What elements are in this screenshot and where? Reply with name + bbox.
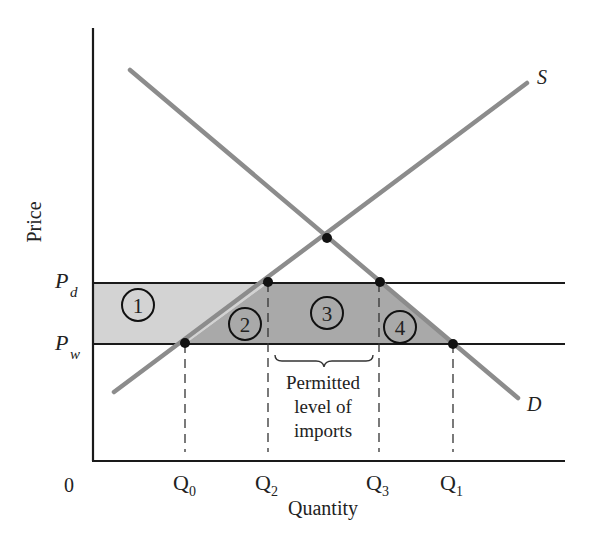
- q0-label: Q: [173, 470, 189, 495]
- area-1-label: 1: [133, 294, 144, 318]
- q0-subscript: 0: [189, 484, 196, 499]
- supply-at-pd-point: [263, 277, 273, 287]
- pd-label: P: [54, 268, 68, 293]
- area-2-label: 2: [240, 313, 251, 337]
- annotation-line-2: level of: [294, 396, 352, 417]
- q2-label: Q: [255, 470, 271, 495]
- x-axis-title: Quantity: [288, 497, 358, 520]
- origin-label: 0: [64, 474, 74, 496]
- annotation-line-3: imports: [294, 420, 352, 441]
- area-4-label: 4: [395, 316, 406, 340]
- y-axis-title: Price: [23, 201, 45, 242]
- q3-label: Q: [366, 470, 382, 495]
- demand-at-pd-point: [375, 277, 385, 287]
- demand-label: D: [526, 393, 542, 415]
- pw-subscript: w: [70, 346, 80, 362]
- supply-label: S: [537, 66, 547, 88]
- supply-curve: [114, 83, 527, 392]
- equilibrium-point: [322, 233, 332, 243]
- pw-label: P: [54, 330, 68, 355]
- demand-at-pw-point: [448, 339, 458, 349]
- imports-brace: [275, 355, 373, 367]
- q1-subscript: 1: [456, 484, 463, 499]
- annotation-line-1: Permitted: [286, 372, 360, 393]
- pd-subscript: d: [70, 284, 78, 300]
- quota-diagram: 1 2 3 4 Permitted level of imports S D P…: [0, 0, 596, 544]
- supply-at-pw-point: [180, 338, 190, 348]
- q1-label: Q: [440, 470, 456, 495]
- q3-subscript: 3: [382, 484, 389, 499]
- q2-subscript: 2: [271, 484, 278, 499]
- area-3-label: 3: [322, 302, 333, 326]
